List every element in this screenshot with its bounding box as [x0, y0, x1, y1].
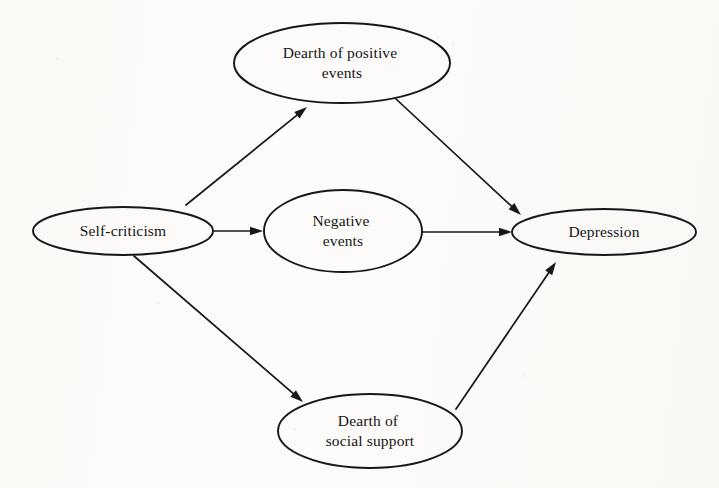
node-dearth-of-positive-events[interactable]: Dearth of positive events [234, 23, 450, 103]
node-dearth-of-social-support[interactable]: Dearth of social support [278, 394, 462, 468]
node-negative-events[interactable]: Negative events [264, 190, 422, 272]
edge-negative-events-to-depression[interactable] [422, 228, 512, 237]
arrowhead-icon [545, 262, 556, 275]
edge-line [396, 99, 513, 208]
node-label-line1: Self-criticism [80, 222, 166, 239]
node-label-line1: Negative [312, 212, 369, 229]
edge-self-criticism-to-dearth-of-social-support[interactable] [134, 256, 303, 402]
node-label: Self-criticism [80, 222, 166, 239]
edge-line [456, 271, 550, 409]
edge-dearth-of-positive-events-to-depression[interactable] [396, 99, 521, 215]
node-label: Depression [568, 223, 639, 240]
edge-dearth-of-social-support-to-depression[interactable] [456, 262, 556, 409]
node-label-line2: social support [326, 432, 415, 449]
node-label-line1: Dearth of [338, 412, 399, 429]
edge-line [186, 114, 299, 205]
arrowhead-icon [499, 228, 512, 237]
edge-line [134, 256, 295, 395]
node-self-criticism[interactable]: Self-criticism [33, 207, 213, 255]
edge-self-criticism-to-negative-events[interactable] [214, 227, 263, 236]
edge-self-criticism-to-dearth-of-positive-events[interactable] [186, 107, 307, 205]
node-depression[interactable]: Depression [512, 209, 696, 255]
node-label-line1: Dearth of positive [283, 44, 398, 61]
node-label-line1: Depression [568, 223, 639, 240]
causal-path-diagram: Self-criticism Dearth of positive events… [0, 0, 719, 488]
node-label-line2: events [322, 64, 363, 81]
diagram-root: Self-criticism Dearth of positive events… [0, 0, 719, 488]
node-label-line2: events [323, 232, 364, 249]
arrowhead-icon [250, 227, 263, 236]
node-layer: Self-criticism Dearth of positive events… [33, 23, 696, 468]
